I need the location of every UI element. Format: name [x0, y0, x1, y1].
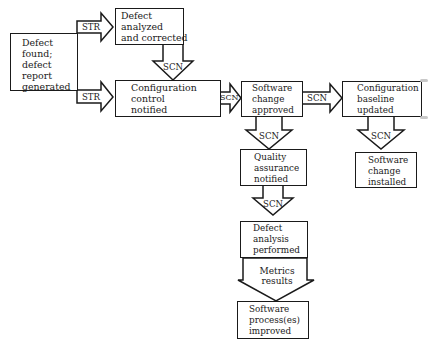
- node-text-line: change: [252, 94, 296, 105]
- node-text-line: Software: [252, 83, 296, 94]
- node-quality-assurance: Quality assurance notified: [240, 149, 307, 186]
- node-text-line: found;: [22, 48, 71, 59]
- node-text-line: defect: [22, 59, 71, 70]
- node-text-line: assurance: [254, 163, 300, 174]
- node-text-line: notified: [254, 174, 300, 185]
- edge-label-scn-approved-qa: SCN: [255, 131, 283, 141]
- node-text-line: Software: [249, 304, 302, 315]
- node-text-line: analyzed: [121, 21, 177, 32]
- edge-label-str-top: STR: [80, 22, 102, 32]
- node-defect-analysis: Defect analysis performed: [240, 221, 308, 258]
- node-defect-found: Defect found; defect report generated: [10, 33, 78, 91]
- node-text-line: performed: [253, 245, 301, 256]
- node-text-line: process(es): [249, 315, 302, 326]
- node-defect-analyzed: Defect analyzed and corrected: [115, 8, 184, 45]
- node-text-line: Configuration: [131, 82, 214, 93]
- node-text-line: improved: [249, 326, 302, 337]
- node-text-line: Defect: [253, 223, 301, 234]
- node-text-line: generated: [22, 81, 71, 92]
- node-text-line: notified: [131, 104, 214, 115]
- node-text-line: Configuration: [357, 83, 415, 94]
- node-text-line: installed: [368, 177, 410, 188]
- edge-label-scn-control-approved: SCN: [220, 93, 238, 103]
- node-process-improved: Software process(es) improved: [237, 301, 309, 339]
- edge-label-str-bottom: STR: [80, 92, 102, 102]
- node-text-line: report: [22, 70, 71, 81]
- node-text-line: change: [368, 166, 410, 177]
- edge-label-scn-baseline-installed: SCN: [367, 131, 395, 141]
- node-text-line: updated: [357, 105, 415, 116]
- metrics-line-2: results: [250, 276, 304, 286]
- node-config-baseline: Configuration baseline updated: [342, 81, 422, 117]
- edge-label-metrics-results: Metrics results: [250, 266, 304, 286]
- node-software-change-approved: Software change approved: [241, 81, 303, 117]
- node-text-line: Defect: [22, 37, 71, 48]
- scan-artifact: [420, 79, 428, 82]
- node-software-change-installed: Software change installed: [355, 152, 417, 188]
- edge-label-scn-approved-baseline: SCN: [304, 93, 330, 103]
- node-text-line: and corrected: [121, 32, 177, 43]
- edge-label-scn-analyzed-control: SCN: [158, 62, 188, 72]
- node-text-line: approved: [252, 105, 296, 116]
- node-config-control: Configuration control notified: [115, 80, 221, 117]
- edge-label-scn-qa-analysis: SCN: [259, 199, 287, 209]
- metrics-line-1: Metrics: [250, 266, 304, 276]
- scan-artifact: [420, 116, 428, 119]
- node-text-line: Quality: [254, 152, 300, 163]
- node-text-line: Defect: [121, 10, 177, 21]
- node-text-line: analysis: [253, 234, 301, 245]
- node-text-line: control: [131, 93, 214, 104]
- node-text-line: Software: [368, 155, 410, 166]
- node-text-line: baseline: [357, 94, 415, 105]
